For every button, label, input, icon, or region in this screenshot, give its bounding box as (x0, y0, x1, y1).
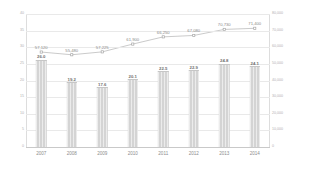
x-axis-category-label: 2010 (128, 152, 138, 157)
bar[interactable]: 19.2 (67, 82, 77, 147)
line-value-label: 71,400 (248, 22, 261, 26)
gridline (26, 14, 270, 15)
line-value-label: 70,730 (218, 23, 231, 27)
y2-axis-tick-label: 80,000 (272, 12, 283, 16)
y2-axis-tick-label: 20,000 (272, 112, 283, 116)
gridline (26, 114, 270, 115)
y2-axis-tick-label: 60,000 (272, 45, 283, 49)
x-axis-category-label: 2012 (189, 152, 199, 157)
y2-axis-tick-label: 50,000 (272, 62, 283, 66)
line-marker[interactable] (132, 43, 134, 45)
x-axis-category-label: 2013 (219, 152, 229, 157)
x-axis-category-label: 2014 (250, 152, 260, 157)
gridline (26, 97, 270, 98)
bar-value-label: 24.8 (220, 59, 228, 63)
y-axis-tick-label: 5 (22, 128, 24, 132)
bar[interactable]: 24.1 (250, 66, 260, 147)
bar[interactable]: 22.9 (189, 70, 199, 147)
line-marker[interactable] (162, 36, 164, 38)
y2-axis-tick-label: 40,000 (272, 79, 283, 83)
line-value-label: 66,250 (157, 31, 170, 35)
line-value-label: 67,080 (187, 29, 200, 33)
plot-area: 0510152025303540010,00020,00030,00040,00… (26, 14, 270, 147)
gridline (26, 31, 270, 32)
y-axis-tick-label: 30 (20, 45, 24, 49)
x-axis-category-label: 2009 (97, 152, 107, 157)
bar-value-label: 22.9 (190, 66, 198, 70)
gridline (26, 147, 270, 148)
y2-axis-tick-label: 70,000 (272, 29, 283, 33)
bar[interactable]: 17.6 (97, 87, 107, 147)
chart-container: 0510152025303540010,00020,00030,00040,00… (0, 0, 309, 171)
bar-value-label: 22.5 (159, 67, 167, 71)
line-value-label: 57,120 (35, 46, 48, 50)
line-marker[interactable] (193, 34, 195, 36)
y-axis-tick-label: 20 (20, 79, 24, 83)
y-axis-tick-label: 15 (20, 95, 24, 99)
bar[interactable]: 20.1 (128, 79, 138, 147)
line-value-label: 57,225 (96, 46, 109, 50)
bar[interactable]: 22.5 (158, 71, 168, 147)
line-marker[interactable] (71, 54, 73, 56)
gridline (26, 81, 270, 82)
bar-value-label: 24.1 (251, 62, 259, 66)
line-value-label: 55,480 (65, 49, 78, 53)
line-marker[interactable] (101, 51, 103, 53)
line-marker[interactable] (40, 51, 42, 53)
gridline (26, 47, 270, 48)
y-axis-tick-label: 0 (22, 145, 24, 149)
y2-axis-tick-label: 0 (272, 145, 274, 149)
y-axis-tick-label: 10 (20, 112, 24, 116)
x-axis-category-label: 2008 (67, 152, 77, 157)
y2-axis-tick-label: 30,000 (272, 95, 283, 99)
line-marker[interactable] (254, 27, 256, 29)
y2-axis-tick-label: 10,000 (272, 128, 283, 132)
y-axis-tick-label: 40 (20, 12, 24, 16)
x-axis-category-label: 2007 (36, 152, 46, 157)
gridline (26, 130, 270, 131)
bar-value-label: 20.1 (129, 75, 137, 79)
bar-value-label: 26.0 (37, 55, 45, 59)
line-value-label: 61,900 (126, 38, 139, 42)
y-axis-tick-label: 35 (20, 29, 24, 33)
bar[interactable]: 24.8 (219, 64, 229, 147)
x-axis-category-label: 2011 (158, 152, 168, 157)
y-axis-tick-label: 25 (20, 62, 24, 66)
bar-value-label: 19.2 (68, 78, 76, 82)
gridline (26, 64, 270, 65)
bar-value-label: 17.6 (98, 83, 106, 87)
bar[interactable]: 26.0 (36, 60, 46, 147)
